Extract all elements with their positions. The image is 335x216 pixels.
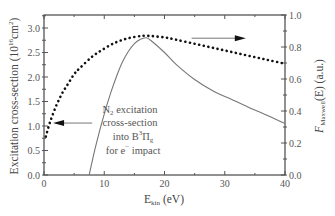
x-tick-label: 10: [99, 178, 109, 189]
arrow-left-icon: [53, 120, 64, 126]
annotation-line2: cross-section: [103, 117, 159, 128]
plot-border: [44, 15, 285, 175]
chart-canvas: 0.00.51.01.52.02.53.0 0.00.20.40.60.81.0…: [0, 0, 335, 216]
plot-frame: [44, 15, 285, 175]
right-tick-label: 0.2: [289, 138, 302, 149]
right-tick-label: 1.0: [289, 10, 302, 21]
arrow-right-icon: [235, 35, 246, 41]
x-axis-title: Ekin (eV): [144, 193, 184, 207]
left-tick-label: 0.0: [28, 170, 41, 181]
x-tick-label: 40: [280, 178, 290, 189]
left-tick-label: 1.5: [28, 96, 41, 107]
left-y-axis-title-main: Excitation cross-section (10: [8, 46, 21, 175]
left-tick-label: 1.0: [28, 121, 41, 132]
x-tick-label: 20: [160, 178, 170, 189]
x-axis-title-main: E: [144, 193, 151, 205]
left-tick-label: 2.5: [28, 47, 41, 58]
annotation-line1: N2 excitation: [102, 104, 158, 117]
x-axis-title-unit: (eV): [160, 193, 184, 206]
left-axis-ticks: 0.00.51.01.52.02.53.0: [28, 16, 49, 181]
right-tick-label: 0.8: [289, 42, 302, 53]
left-tick-label: 2.0: [28, 72, 41, 83]
x-axis-ticks: 010203040: [42, 15, 291, 189]
right-y-axis-title: FMaxwell(E) (a.u.): [313, 59, 327, 134]
annotation-line3: into B3Πg: [113, 129, 154, 144]
x-tick-label: 30: [220, 178, 230, 189]
left-y-axis-title: Excitation cross-section (1016cm2): [7, 17, 21, 174]
annotation-line4: for e− impact: [106, 143, 161, 156]
annotation: N2 excitation cross-section into B3Πg fo…: [102, 104, 160, 156]
right-y-axis-title-rest: (E) (a.u.): [313, 59, 326, 101]
left-tick-label: 0.5: [28, 145, 41, 156]
right-tick-label: 0.6: [289, 74, 302, 85]
x-tick-label: 0: [42, 178, 47, 189]
maxwell-distribution-curve: [46, 36, 285, 137]
left-y-axis-title-unit: cm: [8, 25, 20, 39]
left-tick-label: 3.0: [28, 23, 41, 34]
right-tick-label: 0.4: [289, 106, 302, 117]
right-tick-label: 0.0: [289, 170, 302, 181]
series-layer: [46, 36, 285, 175]
right-y-axis-title-sub: Maxwell: [319, 101, 327, 126]
right-axis-ticks: 0.00.20.40.60.81.0: [281, 10, 302, 181]
